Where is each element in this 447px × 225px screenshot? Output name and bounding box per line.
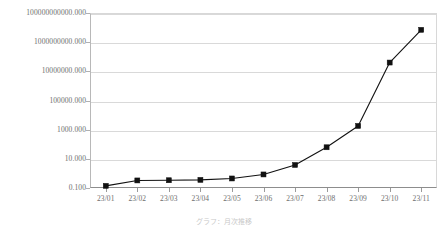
x-axis-tick [390,188,391,192]
y-axis-tick [86,71,90,72]
x-axis-tick [169,188,170,192]
y-axis-tick [86,159,90,160]
x-axis-tick [137,188,138,192]
gridline [91,43,436,44]
chart-container: 100000000000.0001000000000.00010000000.0… [0,0,447,225]
y-axis-labels: 100000000000.0001000000000.00010000000.0… [0,0,86,225]
y-axis-tick-label: 100000.000 [0,97,86,105]
x-axis-tick [327,188,328,192]
gridline [91,102,436,103]
y-axis-tick-label: 10000000.000 [0,67,86,75]
gridline [91,131,436,132]
gridline [91,14,436,15]
x-axis-labels: 23/0123/0223/0323/0423/0523/0623/0723/08… [0,194,447,208]
x-axis-tick [421,188,422,192]
y-axis-tick-label: 10.000 [0,155,86,163]
y-axis-tick [86,130,90,131]
y-axis-tick-label: 1000000000.000 [0,38,86,46]
y-axis-tick [86,13,90,14]
x-axis-tick [295,188,296,192]
y-axis-tick [86,101,90,102]
gridline [91,160,436,161]
gridline [91,72,436,73]
x-axis-tick [264,188,265,192]
y-axis-tick-label: 1000.000 [0,126,86,134]
x-axis-tick [358,188,359,192]
x-axis-tick [232,188,233,192]
y-axis-tick [86,42,90,43]
y-axis-tick-label: 100000000000.000 [0,9,86,17]
x-axis-tick [200,188,201,192]
y-axis-tick-label: 0.100 [0,184,86,192]
plot-area [90,13,437,188]
y-axis-tick [86,188,90,189]
x-axis-tick [106,188,107,192]
chart-caption: グラフ：月次推移 [0,218,447,225]
x-axis-tick-label: 23/11 [398,194,444,203]
